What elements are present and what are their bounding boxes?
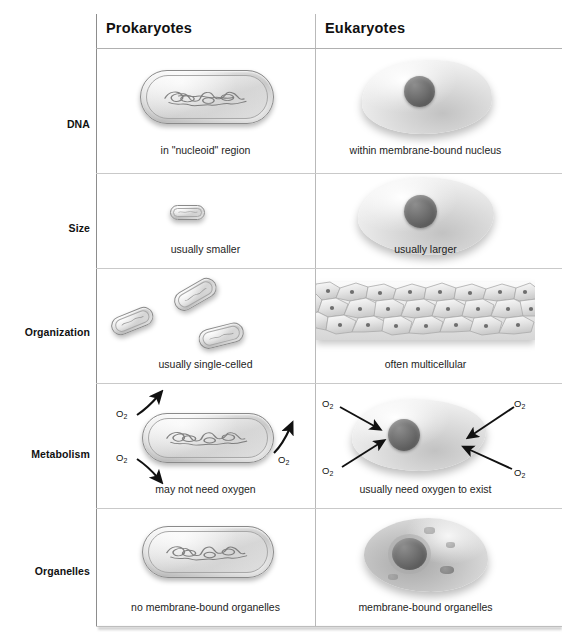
nucleus-icon bbox=[404, 195, 437, 228]
oxygen-label: O2 bbox=[514, 398, 525, 410]
eukaryotic-cell-icon bbox=[362, 60, 492, 134]
column-header-prokaryotes: Prokaryotes bbox=[106, 20, 192, 36]
rod-bacterium-icon bbox=[196, 321, 243, 349]
caption-metabolism-eukaryote: usually need oxygen to exist bbox=[316, 483, 535, 495]
row-label-dna: DNA bbox=[0, 118, 90, 130]
caption-organelles-prokaryote: no membrane-bound organelles bbox=[96, 601, 315, 613]
multicellular-tissue-icon bbox=[316, 282, 535, 340]
rod-bacterium-icon bbox=[170, 275, 217, 313]
caption-dna-prokaryote: in "nucleoid" region bbox=[96, 144, 315, 156]
caption-size-prokaryote: usually smaller bbox=[96, 243, 315, 255]
caption-organization-prokaryote: usually single-celled bbox=[96, 358, 315, 370]
comparison-table: Prokaryotes Eukaryotes DNA bbox=[96, 14, 562, 626]
row-label-metabolism: Metabolism bbox=[0, 448, 90, 460]
rod-bacterium-icon bbox=[140, 70, 272, 122]
caption-organization-eukaryote: often multicellular bbox=[316, 358, 535, 370]
caption-metabolism-prokaryote: may not need oxygen bbox=[96, 483, 315, 495]
rod-bacterium-icon bbox=[142, 526, 272, 576]
cell-organization-prokaryote: usually single-celled bbox=[96, 268, 315, 383]
cell-metabolism-eukaryote: O2 O2 O2 O2 usually need oxygen to exist bbox=[316, 383, 535, 508]
organelle-icon bbox=[446, 542, 455, 548]
row-label-organelles: Organelles bbox=[0, 565, 90, 577]
nucleus-icon bbox=[404, 76, 435, 107]
caption-size-eukaryote: usually larger bbox=[316, 243, 535, 255]
oxygen-label: O2 bbox=[322, 398, 333, 410]
organelle-icon bbox=[440, 566, 454, 574]
cell-size-eukaryote: usually larger bbox=[316, 173, 535, 268]
row-label-size: Size bbox=[0, 222, 90, 234]
column-header-eukaryotes: Eukaryotes bbox=[325, 20, 405, 36]
nucleoid-dna-icon bbox=[176, 209, 200, 215]
cell-organelles-eukaryote: membrane-bound organelles bbox=[316, 508, 535, 626]
tissue-cells-icon bbox=[316, 282, 535, 340]
cell-dna-eukaryote: within membrane-bound nucleus bbox=[316, 48, 535, 173]
cell-organelles-prokaryote: no membrane-bound organelles bbox=[96, 508, 315, 626]
row-label-organization: Organization bbox=[0, 326, 90, 338]
nucleoid-dna-icon bbox=[159, 85, 254, 110]
eukaryotic-cell-icon bbox=[364, 518, 488, 592]
cell-organization-eukaryote: often multicellular bbox=[316, 268, 535, 383]
organelle-icon bbox=[424, 527, 435, 534]
oxygen-label: O2 bbox=[116, 408, 127, 420]
caption-dna-eukaryote: within membrane-bound nucleus bbox=[316, 144, 535, 156]
caption-organelles-eukaryote: membrane-bound organelles bbox=[316, 601, 535, 613]
table-header-row: Prokaryotes Eukaryotes bbox=[96, 14, 562, 48]
organelle-icon bbox=[388, 574, 398, 580]
cell-size-prokaryote: usually smaller bbox=[96, 173, 315, 268]
oxygen-label: O2 bbox=[514, 467, 525, 479]
nucleoid-dna-icon bbox=[161, 540, 255, 564]
cell-metabolism-prokaryote: O2 O2 O2 may not need oxygen bbox=[96, 383, 315, 508]
tiny-rod-bacterium-icon bbox=[170, 205, 203, 218]
nucleus-icon bbox=[392, 538, 427, 570]
oxygen-label: O2 bbox=[116, 452, 127, 464]
comparison-figure: Prokaryotes Eukaryotes DNA bbox=[0, 0, 562, 640]
cell-dna-prokaryote: in "nucleoid" region bbox=[96, 48, 315, 173]
table-bottom-shadow bbox=[98, 627, 562, 631]
oxygen-label: O2 bbox=[322, 465, 333, 477]
rod-bacterium-icon bbox=[108, 305, 153, 336]
oxygen-label: O2 bbox=[278, 454, 289, 466]
